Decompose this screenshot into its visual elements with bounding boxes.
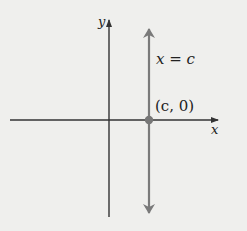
point-c-0 (145, 116, 153, 124)
y-axis-label: y (97, 14, 106, 29)
point-label: (c, 0) (155, 97, 194, 115)
coordinate-diagram: y x x = c (c, 0) (0, 0, 247, 231)
x-axis-label: x (211, 122, 219, 137)
equation-label: x = c (156, 50, 196, 68)
